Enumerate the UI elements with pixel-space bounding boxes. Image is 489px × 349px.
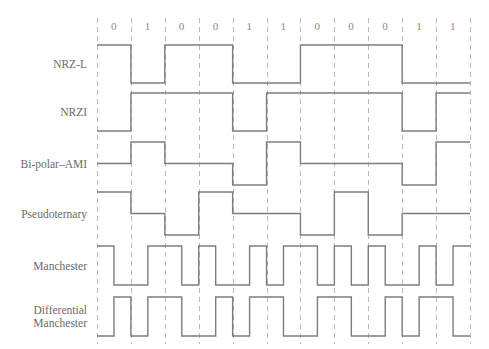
row-label-differential-manchester: Differential bbox=[34, 304, 87, 316]
row-labels: NRZ-LNRZIBi-polar–AMIPseudoternaryManche… bbox=[21, 58, 88, 329]
bit-label: 0 bbox=[213, 20, 219, 32]
bit-label: 1 bbox=[416, 20, 422, 32]
bit-label: 1 bbox=[281, 20, 287, 32]
bit-sequence-labels: 01001100011 bbox=[111, 20, 456, 32]
row-label-differential-manchester: Manchester bbox=[33, 317, 87, 329]
waveform-nrzi bbox=[97, 93, 470, 131]
row-label-bipolar-ami: Bi-polar–AMI bbox=[21, 158, 88, 171]
row-label-nrzi: NRZI bbox=[60, 106, 87, 118]
waveform-manchester bbox=[97, 246, 470, 285]
bit-label: 1 bbox=[145, 20, 151, 32]
bit-label: 0 bbox=[179, 20, 185, 32]
row-label-manchester: Manchester bbox=[33, 260, 87, 272]
grid-lines bbox=[98, 18, 471, 344]
bit-label: 0 bbox=[111, 20, 117, 32]
encoding-waveform-canvas: 01001100011NRZ-LNRZIBi-polar–AMIPseudote… bbox=[0, 0, 489, 349]
row-label-pseudoternary: Pseudoternary bbox=[21, 208, 87, 221]
bit-label: 0 bbox=[382, 20, 388, 32]
waveform-differential-manchester bbox=[97, 297, 470, 336]
bit-label: 1 bbox=[450, 20, 456, 32]
waveform-bipolar-ami bbox=[97, 142, 470, 185]
waveform-nrz-l bbox=[97, 45, 470, 83]
bit-label: 0 bbox=[314, 20, 320, 32]
waveforms bbox=[97, 45, 470, 336]
row-label-nrz-l: NRZ-L bbox=[53, 58, 87, 70]
bit-label: 1 bbox=[247, 20, 253, 32]
encoding-formats-figure: 01001100011NRZ-LNRZIBi-polar–AMIPseudote… bbox=[0, 0, 489, 349]
bit-label: 0 bbox=[348, 20, 354, 32]
waveform-pseudoternary bbox=[97, 192, 470, 235]
